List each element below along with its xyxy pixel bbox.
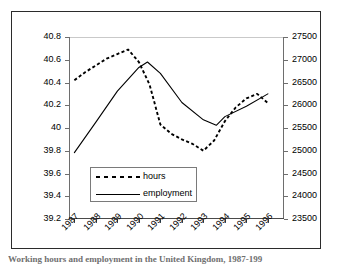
figure-container: 39.239.439.639.84040.240.440.640.8 23500… bbox=[0, 0, 347, 267]
left-axis-tick-label: 39.2 bbox=[17, 214, 61, 223]
right-axis-tick bbox=[284, 196, 288, 197]
left-axis-tick-label: 39.4 bbox=[17, 191, 61, 200]
chart-frame: 39.239.439.639.84040.240.440.640.8 23500… bbox=[11, 11, 321, 249]
series-line-hours bbox=[74, 50, 268, 151]
left-axis-tick-label: 40.8 bbox=[17, 32, 61, 41]
series-line-employment bbox=[74, 62, 268, 153]
left-axis-tick-label: 39.8 bbox=[17, 146, 61, 155]
right-axis-tick-label: 26500 bbox=[292, 78, 340, 87]
right-axis-tick bbox=[284, 174, 288, 175]
left-axis-tick-label: 40.6 bbox=[17, 55, 61, 64]
x-axis-tick-label: 1987 bbox=[60, 212, 81, 233]
right-axis-tick-label: 27000 bbox=[292, 55, 340, 64]
right-axis-tick bbox=[284, 219, 288, 220]
right-axis-tick bbox=[284, 105, 288, 106]
right-axis-tick bbox=[284, 60, 288, 61]
right-axis-tick-label: 25500 bbox=[292, 123, 340, 132]
right-axis-tick bbox=[284, 151, 288, 152]
right-axis-tick-label: 23500 bbox=[292, 214, 340, 223]
legend-label-hours: hours bbox=[143, 171, 166, 181]
right-axis-tick bbox=[284, 37, 288, 38]
right-axis-tick-label: 27500 bbox=[292, 32, 340, 41]
left-axis-tick-label: 40 bbox=[17, 123, 61, 132]
left-axis-tick-label: 40.2 bbox=[17, 100, 61, 109]
legend-item-hours[interactable]: hours bbox=[91, 168, 198, 185]
left-axis-tick-label: 40.4 bbox=[17, 78, 61, 87]
right-axis-tick-label: 24000 bbox=[292, 191, 340, 200]
right-axis-tick-label: 25000 bbox=[292, 146, 340, 155]
left-axis-tick-label: 39.6 bbox=[17, 169, 61, 178]
figure-caption: Working hours and employment in the Unit… bbox=[8, 254, 347, 265]
right-axis-tick-label: 24500 bbox=[292, 169, 340, 178]
right-axis-tick bbox=[284, 128, 288, 129]
right-axis-tick-label: 26000 bbox=[292, 100, 340, 109]
legend-item-employment[interactable]: employment bbox=[91, 185, 198, 202]
right-axis-tick bbox=[284, 83, 288, 84]
legend-label-employment: employment bbox=[143, 188, 192, 198]
legend-swatch-employment bbox=[96, 194, 140, 195]
legend: hours employment bbox=[90, 167, 197, 202]
legend-swatch-hours bbox=[96, 176, 140, 178]
